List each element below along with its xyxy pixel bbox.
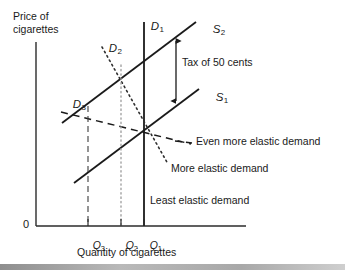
origin-label: 0 xyxy=(23,218,29,230)
curve-label-d1: D1 xyxy=(138,7,164,46)
curve-label-d2-sub: 2 xyxy=(117,47,121,56)
tick-label-q1: Q1 xyxy=(138,228,162,263)
y-axis-title-line2: cigarettes xyxy=(13,24,59,36)
curve-label-s2-base: S xyxy=(213,23,221,35)
tick-label-q2-base: Q xyxy=(126,239,134,251)
tick-label-q3-sub: 3 xyxy=(101,244,105,253)
curve-label-d3-sub: 3 xyxy=(81,103,85,112)
annotation-more-elastic-demand: More elastic demand xyxy=(171,163,268,175)
economics-supply-demand-figure: Price of cigarettes 0 Quantity of cigare… xyxy=(0,0,345,270)
annotation-least-elastic-demand: Least elastic demand xyxy=(150,195,249,207)
curve-label-s1-base: S xyxy=(216,91,224,103)
curve-label-d3-base: D xyxy=(73,98,81,110)
tick-label-q3: Q3 xyxy=(81,228,105,263)
curve-label-s1: S1 xyxy=(203,78,228,117)
curve-label-d1-base: D xyxy=(151,20,159,32)
tick-label-q1-sub: 1 xyxy=(158,244,162,253)
tick-label-q1-base: Q xyxy=(150,239,158,251)
annotation-even-more-elastic-demand: Even more elastic demand xyxy=(196,136,320,148)
curve-label-d2-base: D xyxy=(109,42,117,54)
y-axis-title-line1: Price of xyxy=(13,11,49,23)
footer-bar xyxy=(0,264,345,270)
tick-label-q2: Q2 xyxy=(114,228,138,263)
curve-label-d1-sub: 1 xyxy=(159,25,163,34)
curve-label-s2-sub: 2 xyxy=(221,28,225,37)
tick-label-q3-base: Q xyxy=(93,239,101,251)
curve-label-d3: D3 xyxy=(60,85,86,124)
annotation-tax-amount: Tax of 50 cents xyxy=(182,57,253,69)
curve-label-s2: S2 xyxy=(200,10,225,49)
curve-label-d2: D2 xyxy=(96,29,122,68)
curve-label-s1-sub: 1 xyxy=(224,96,228,105)
